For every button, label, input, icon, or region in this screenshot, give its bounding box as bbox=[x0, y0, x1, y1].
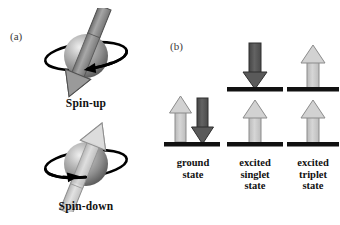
triplet-state-graphic bbox=[286, 0, 340, 152]
singlet-state-label-line-1: excited bbox=[226, 157, 284, 169]
triplet-arrow-up-lower bbox=[301, 100, 325, 143]
triplet-arrow-up-upper bbox=[301, 45, 325, 88]
spin-states-figure: (a) bbox=[0, 0, 340, 225]
triplet-lower-level-bar bbox=[287, 142, 339, 147]
spin-up-diagram bbox=[22, 8, 150, 104]
ground-state-graphic bbox=[162, 0, 224, 152]
ground-state-label-line-1: ground bbox=[162, 157, 224, 169]
triplet-state-label-line-2: triplet bbox=[286, 169, 340, 181]
singlet-state-label: excited singlet state bbox=[226, 157, 284, 192]
ground-arrow-down bbox=[192, 98, 214, 144]
state-column-ground: ground state bbox=[162, 0, 224, 225]
spin-up-caption: Spin-up bbox=[22, 97, 150, 109]
singlet-lower-level-bar bbox=[227, 142, 283, 147]
singlet-state-graphic bbox=[226, 0, 284, 152]
ground-state-label-line-2: state bbox=[162, 169, 224, 181]
singlet-state-label-line-3: state bbox=[226, 180, 284, 192]
triplet-state-label-line-3: state bbox=[286, 180, 340, 192]
ground-arrow-up bbox=[170, 96, 192, 142]
singlet-arrow-up bbox=[243, 100, 267, 143]
triplet-state-label-line-1: excited bbox=[286, 157, 340, 169]
triplet-upper-level-bar bbox=[287, 87, 339, 92]
state-column-triplet: excited triplet state bbox=[286, 0, 340, 225]
triplet-state-label: excited triplet state bbox=[286, 157, 340, 192]
ground-state-label: ground state bbox=[162, 157, 224, 180]
state-column-singlet: excited singlet state bbox=[226, 0, 284, 225]
spin-down-caption: Spin-down bbox=[22, 200, 150, 212]
spin-down-diagram bbox=[22, 116, 150, 212]
ground-level-bar bbox=[164, 142, 220, 147]
energy-level-panel: (b) bbox=[160, 0, 340, 225]
singlet-arrow-down bbox=[243, 43, 267, 89]
singlet-upper-level-bar bbox=[227, 87, 283, 92]
singlet-state-label-line-2: singlet bbox=[226, 169, 284, 181]
panel-a-letter: (a) bbox=[10, 30, 22, 42]
